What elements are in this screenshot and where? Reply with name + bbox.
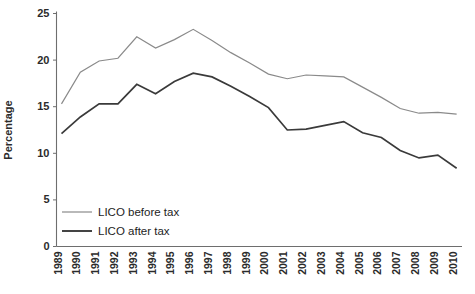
chart-container: 0510152025 19891990199119921993199419951… [0, 0, 475, 294]
x-tick-label: 2010 [447, 251, 459, 275]
x-tick-label: 1989 [52, 251, 64, 275]
x-tick-label: 2008 [409, 251, 421, 275]
x-tick-label: 2003 [315, 251, 327, 275]
x-tick-label: 2001 [277, 251, 289, 275]
x-tick-label: 1996 [183, 251, 195, 275]
x-tick-label: 2005 [353, 251, 365, 275]
x-tick-label: 2007 [390, 251, 402, 275]
y-tick-label: 15 [37, 100, 49, 112]
x-tick-label: 1995 [164, 251, 176, 275]
x-tick-label: 1993 [127, 251, 139, 275]
x-tick-label: 2000 [258, 251, 270, 275]
x-tick-label: 1992 [108, 251, 120, 275]
y-tick-label: 25 [37, 7, 49, 19]
x-tick-label: 2002 [296, 251, 308, 275]
x-tick-label: 1991 [89, 251, 101, 275]
series-line-after-tax [62, 73, 457, 168]
y-tick-label: 0 [43, 240, 49, 252]
x-tick-label: 2009 [428, 251, 440, 275]
x-tick-label: 1997 [202, 251, 214, 275]
x-axis-ticks: 1989199019911992199319941995199619971998… [52, 251, 459, 275]
chart-legend: LICO before taxLICO after tax [62, 206, 179, 237]
y-tick-label: 5 [43, 193, 49, 205]
x-tick-label: 1990 [70, 251, 82, 275]
x-tick-label: 1998 [221, 251, 233, 275]
y-axis-ticks: 0510152025 [37, 7, 56, 252]
y-axis-title: Percentage [2, 100, 14, 159]
x-tick-label: 2004 [334, 251, 346, 275]
y-tick-label: 10 [37, 147, 49, 159]
x-tick-label: 1999 [240, 251, 252, 275]
y-tick-label: 20 [37, 54, 49, 66]
x-tick-label: 2006 [371, 251, 383, 275]
legend-label-before-tax: LICO before tax [98, 206, 179, 218]
chart-series [62, 29, 457, 168]
x-tick-label: 1994 [146, 251, 158, 275]
legend-label-after-tax: LICO after tax [98, 225, 170, 237]
line-chart: 0510152025 19891990199119921993199419951… [0, 0, 475, 294]
